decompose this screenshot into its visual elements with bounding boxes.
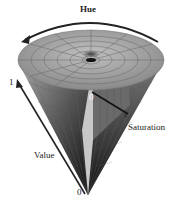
value-max-label: 1: [9, 78, 14, 87]
hsv-cone-diagram: [0, 0, 183, 208]
saturation-min-label: 0: [89, 93, 94, 102]
saturation-max-label: 1: [123, 110, 128, 119]
cone-center: [86, 58, 96, 62]
saturation-label: Saturation: [128, 123, 165, 132]
hue-arrowhead-icon: [21, 35, 30, 44]
value-arrowhead-icon: [16, 79, 23, 88]
hue-label: Hue: [80, 5, 96, 14]
value-min-label: 0: [77, 188, 82, 197]
value-label: Value: [34, 151, 55, 160]
hue-disc: [18, 30, 164, 90]
